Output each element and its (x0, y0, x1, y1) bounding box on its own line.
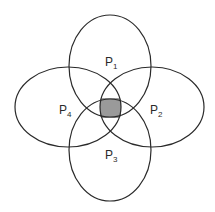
label-p1: P1 (105, 55, 118, 71)
label-p4: P4 (59, 103, 72, 119)
label-p2: P2 (150, 103, 163, 119)
center-intersection (100, 98, 121, 118)
venn-diagram: P1 P2 P3 P4 (0, 0, 215, 212)
label-p3: P3 (105, 148, 118, 164)
